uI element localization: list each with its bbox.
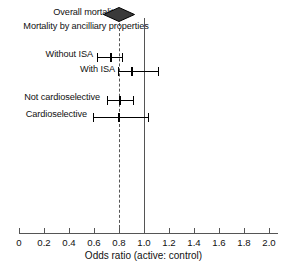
x-tick-1.8 [244, 228, 245, 234]
point-estimate-with-isa [131, 67, 133, 76]
ci-cap-high-without-isa [122, 53, 123, 62]
x-tick-0.2 [44, 228, 45, 234]
x-axis-line [19, 233, 278, 234]
diamond-overall-mortality [103, 7, 135, 26]
row-heading-ancillary-properties: Mortality by ancilliary properties [6, 21, 166, 32]
pooled-estimate-line [119, 18, 120, 233]
x-tick-0.6 [94, 228, 95, 234]
x-tick-0.4 [69, 228, 70, 234]
ci-line-cardioselective [93, 117, 148, 118]
row-label-with-isa: With ISA [80, 64, 115, 75]
x-axis-title: Odds ratio (active: control) [0, 250, 287, 261]
row-label-cardioselective: Cardioselective [26, 109, 87, 120]
no-effect-line [144, 18, 145, 233]
row-label-not-cardioselective: Not cardioselective [24, 92, 100, 103]
point-estimate-cardioselective [118, 113, 120, 122]
ci-cap-low-cardioselective [93, 113, 94, 122]
x-tick-0.8 [119, 228, 120, 234]
ci-cap-low-with-isa [118, 67, 119, 76]
ci-cap-low-without-isa [97, 53, 98, 62]
ci-cap-high-cardioselective [148, 113, 149, 122]
forest-plot: Overall mortality Mortality by ancilliar… [0, 0, 287, 267]
ci-line-with-isa [118, 71, 158, 72]
x-tick-2.0 [269, 228, 270, 234]
x-tick-0 [19, 228, 20, 234]
row-label-without-isa: Without ISA [46, 49, 93, 60]
x-tick-1.4 [194, 228, 195, 234]
ci-cap-high-not-cardioselective [133, 96, 134, 105]
diamond-icon [103, 7, 135, 22]
x-tick-1.0 [144, 228, 145, 234]
x-tick-1.6 [219, 228, 220, 234]
point-estimate-without-isa [110, 53, 112, 62]
ci-cap-low-not-cardioselective [107, 96, 108, 105]
x-tick-label-2.0: 2.0 [254, 237, 284, 248]
x-tick-1.2 [169, 228, 170, 234]
ci-cap-high-with-isa [158, 67, 159, 76]
point-estimate-not-cardioselective [119, 96, 121, 105]
